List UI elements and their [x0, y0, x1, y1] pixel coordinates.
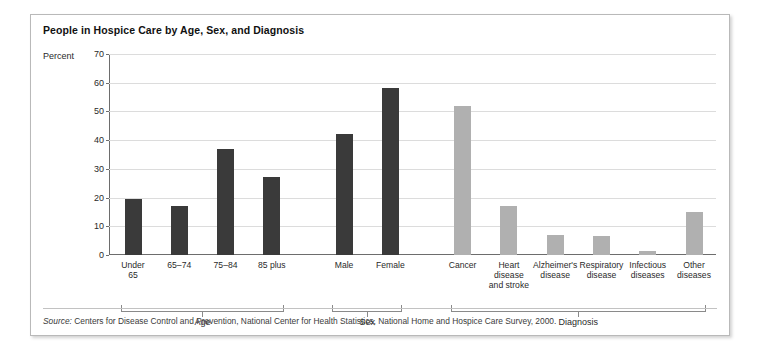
y-axis-tick-mark — [106, 198, 109, 199]
gridline — [109, 111, 716, 112]
source-note: Source: Centers for Disease Control and … — [43, 316, 556, 326]
bar — [217, 149, 234, 255]
y-axis-tick-mark — [106, 54, 109, 55]
y-axis-tick-mark — [106, 83, 109, 84]
bar — [336, 134, 353, 255]
bar — [382, 88, 399, 255]
y-axis-tick-label: 10 — [94, 221, 104, 231]
source-label: Source: — [43, 316, 72, 326]
x-axis-tick-label: Female — [354, 260, 426, 270]
y-axis-tick-label: 30 — [94, 164, 104, 174]
gridline — [109, 198, 716, 199]
bar — [639, 251, 656, 255]
gridline — [109, 226, 716, 227]
y-axis-tick-mark — [106, 111, 109, 112]
gridline — [109, 54, 716, 55]
gridline — [109, 83, 716, 84]
bar — [454, 106, 471, 255]
bar — [500, 206, 517, 255]
plot-area: 010203040506070 Under6565–7475–8485 plus… — [109, 54, 716, 255]
y-axis-tick-mark — [106, 226, 109, 227]
bar — [686, 212, 703, 255]
x-axis-line — [109, 254, 716, 255]
x-axis-tick-label: 85 plus — [236, 260, 308, 270]
bar — [125, 199, 142, 255]
y-axis-tick-label: 60 — [94, 78, 104, 88]
y-axis-tick-label: 70 — [94, 49, 104, 59]
figure-panel: People in Hospice Care by Age, Sex, and … — [30, 14, 730, 336]
y-axis-tick-mark — [106, 255, 109, 256]
y-axis-tick-mark — [106, 169, 109, 170]
y-axis-unit-label: Percent — [43, 51, 74, 61]
bar — [263, 177, 280, 255]
y-axis-line — [109, 54, 110, 255]
source-divider — [43, 308, 717, 309]
group-bracket-label: Diagnosis — [559, 317, 599, 327]
gridline — [109, 169, 716, 170]
y-axis-tick-label: 50 — [94, 106, 104, 116]
bar — [171, 206, 188, 255]
x-axis-tick-label: Otherdiseases — [658, 260, 730, 280]
y-axis-tick-mark — [106, 140, 109, 141]
y-axis-tick-label: 40 — [94, 135, 104, 145]
bar — [593, 236, 610, 255]
gridline — [109, 140, 716, 141]
source-body: Centers for Disease Control and Preventi… — [72, 316, 556, 326]
y-axis-tick-label: 20 — [94, 193, 104, 203]
bar — [547, 235, 564, 255]
y-axis-tick-label: 0 — [99, 250, 104, 260]
page-title: People in Hospice Care by Age, Sex, and … — [43, 24, 304, 36]
